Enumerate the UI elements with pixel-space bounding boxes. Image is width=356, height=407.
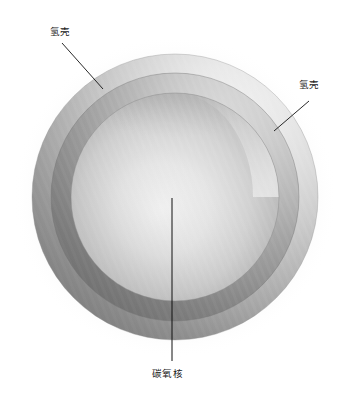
diagram-canvas: 氢壳 氢壳 碳氧核 (0, 0, 356, 407)
label-hydrogen-shell-left: 氢壳 (50, 27, 71, 37)
label-carbon-oxygen-core: 碳氧核 (152, 369, 183, 379)
label-hydrogen-shell-right: 氢壳 (299, 80, 320, 90)
stellar-structure-illustration (0, 0, 356, 407)
